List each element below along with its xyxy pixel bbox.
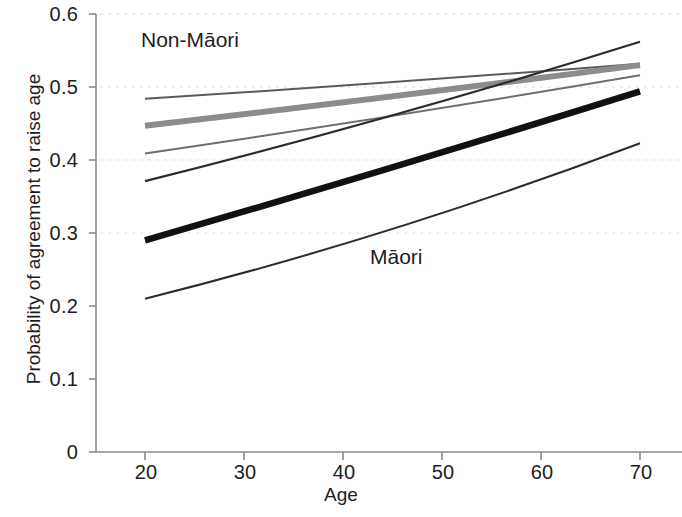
x-tick-label-60: 60 bbox=[512, 461, 572, 484]
x-tick-label-40: 40 bbox=[314, 461, 374, 484]
x-tick-label-20: 20 bbox=[116, 461, 176, 484]
axes bbox=[89, 14, 682, 460]
chart-figure: 0.6 0.5 0.4 0.3 0.2 0.1 0 20 30 40 50 60… bbox=[0, 0, 682, 517]
annotation-non-maori: Non-Māori bbox=[141, 28, 239, 52]
x-axis-title: Age bbox=[0, 484, 682, 506]
plot-area bbox=[0, 0, 682, 517]
annotation-maori: Māori bbox=[370, 245, 423, 269]
x-tick-label-30: 30 bbox=[215, 461, 275, 484]
series-line-maori-thick-black bbox=[145, 91, 640, 240]
x-tick-label-70: 70 bbox=[611, 461, 671, 484]
x-tick-label-50: 50 bbox=[413, 461, 473, 484]
y-axis-title: Probability of agreement to raise age bbox=[23, 9, 45, 449]
